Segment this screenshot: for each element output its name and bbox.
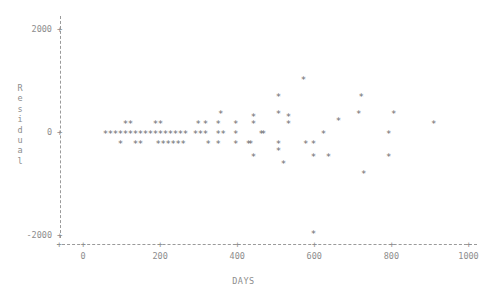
x-axis-tick-label: 600 [307,251,322,261]
x-axis-tick-label: 1000 [458,251,478,261]
data-point-marker: * [232,140,239,147]
data-point-marker: * [247,140,254,147]
x-axis-tick-mark: + [235,240,240,249]
data-point-marker: * [232,130,239,137]
data-point-marker: * [310,153,317,160]
data-point-marker: * [217,109,224,116]
data-point-marker: * [117,140,124,147]
data-point-marker: * [335,116,342,123]
data-point-marker: * [360,170,367,177]
x-axis-title: DAYS [0,276,487,286]
x-axis-line [57,244,477,245]
x-axis-tick-label: 400 [230,251,245,261]
data-point-marker: * [157,119,164,126]
x-axis-tick-label: 200 [152,251,167,261]
data-point-marker: * [250,113,257,120]
data-point-marker: * [180,140,187,147]
data-point-marker: * [195,119,202,126]
data-point-marker: * [325,153,332,160]
y-axis-tick-mark: + [57,25,62,34]
data-point-marker: * [355,109,362,116]
x-axis-tick-mark: + [158,240,163,249]
data-point-marker: * [275,93,282,100]
data-point-marker: * [202,119,209,126]
x-axis-tick-mark: + [312,240,317,249]
data-point-marker: * [232,119,239,126]
x-axis-tick-label: 0 [80,251,85,261]
data-point-marker: * [302,140,309,147]
data-point-marker: * [127,119,134,126]
x-axis-tick-mark: + [466,240,471,249]
data-point-marker: * [250,153,257,160]
data-point-marker: * [280,160,287,167]
data-point-marker: * [300,76,307,83]
data-point-marker: * [215,119,222,126]
data-point-marker: * [310,140,317,147]
y-axis-tick-label: -2000 [8,231,52,240]
x-axis-origin-tick-mark: + [57,240,62,249]
data-point-marker: * [390,109,397,116]
data-point-marker: * [310,230,317,237]
x-axis-tick-mark: + [389,240,394,249]
data-point-marker: * [430,119,437,126]
data-point-marker: * [275,109,282,116]
data-point-marker: * [260,130,267,137]
x-axis-tick-label: 800 [384,251,399,261]
data-point-marker: * [220,130,227,137]
data-point-marker: * [182,130,189,137]
y-axis-tick-label: 2000 [8,25,52,34]
data-point-marker: * [385,153,392,160]
data-point-marker: * [205,140,212,147]
data-point-marker: * [202,130,209,137]
data-point-marker: * [320,130,327,137]
data-point-marker: * [215,140,222,147]
y-axis-tick-mark: + [57,128,62,137]
data-point-marker: * [285,119,292,126]
y-axis-tick-label: 0 [8,128,52,137]
data-point-marker: * [385,130,392,137]
scatter-plot-figure: Residual *******************************… [0,0,487,299]
x-axis-tick-mark: + [81,240,86,249]
data-point-marker: * [275,146,282,153]
data-point-marker: * [137,140,144,147]
data-point-marker: * [358,93,365,100]
